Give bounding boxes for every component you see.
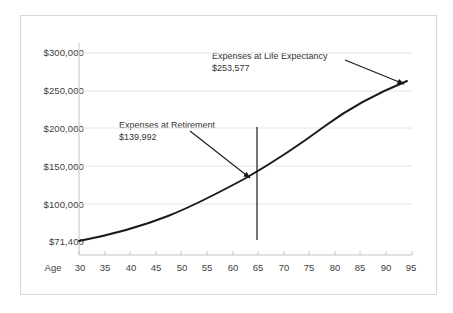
plot-area	[0, 0, 453, 313]
axis-lines	[75, 43, 412, 255]
retirement-arrow	[190, 131, 250, 178]
gridlines	[79, 53, 412, 204]
expense-curve	[79, 81, 407, 241]
chart-figure: $300,000 $250,000 $200,000 $150,000 $100…	[0, 0, 453, 313]
life-expectancy-arrow	[345, 60, 404, 84]
